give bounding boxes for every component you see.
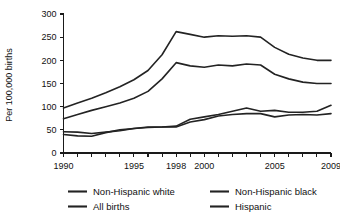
data-series-group — [64, 32, 332, 137]
x-tick-label: 1998 — [166, 161, 186, 171]
series-line — [64, 63, 332, 119]
y-tick-label: 0 — [51, 148, 56, 158]
x-tick-label: 2009 — [321, 161, 340, 171]
legend-label: Hispanic — [235, 201, 272, 212]
y-axis-title: Per 100,000 births — [4, 48, 14, 122]
line-chart: Per 100,000 births 050100150200250300 19… — [0, 0, 340, 220]
y-tick-label: 250 — [41, 32, 56, 42]
x-tick-label: 1995 — [124, 161, 144, 171]
chart-figure: Per 100,000 births 050100150200250300 19… — [0, 0, 340, 220]
legend-label: All births — [93, 201, 130, 212]
x-tick-label: 2005 — [265, 161, 285, 171]
legend-label: Non-Hispanic white — [93, 186, 175, 197]
chart-legend: Non-Hispanic whiteNon-Hispanic blackAll … — [68, 186, 317, 212]
y-tick-label: 300 — [41, 9, 56, 19]
x-tick-label: 2000 — [194, 161, 214, 171]
y-tick-label: 100 — [41, 102, 56, 112]
y-axis-ticks: 050100150200250300 — [41, 9, 63, 158]
y-tick-label: 50 — [46, 125, 56, 135]
series-line — [64, 105, 332, 133]
series-line — [64, 32, 332, 108]
legend-label: Non-Hispanic black — [235, 186, 317, 197]
y-tick-label: 200 — [41, 56, 56, 66]
series-line — [64, 114, 332, 137]
y-axis-title-label: Per 100,000 births — [4, 48, 14, 122]
x-axis-tick-labels: 199019951998200020052009 — [53, 161, 340, 171]
y-tick-label: 150 — [41, 79, 56, 89]
x-tick-label: 1990 — [53, 161, 73, 171]
